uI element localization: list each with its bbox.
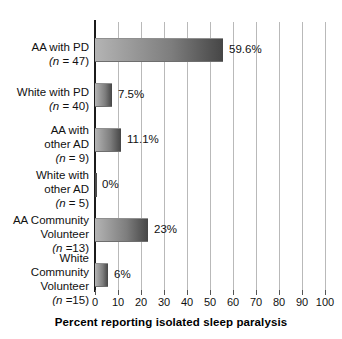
n-value: = 9) — [66, 152, 89, 164]
category-n: (n = 5) — [36, 196, 89, 210]
gridline — [325, 22, 326, 290]
x-axis-tick — [279, 290, 280, 295]
category-name: AA with PD — [31, 40, 89, 54]
bar-white-community-volunteer[interactable] — [95, 263, 108, 287]
category-n: (n = 40) — [17, 99, 89, 113]
n-italic: (n — [55, 152, 65, 164]
category-name: AA with — [44, 123, 89, 137]
category-name: Volunteer — [31, 279, 89, 293]
bar-value-label: 7.5% — [118, 87, 144, 101]
gridline — [187, 22, 188, 290]
bar-value-label: 0% — [102, 177, 119, 191]
category-name: White with PD — [17, 85, 89, 99]
category-n: (n = 9) — [44, 151, 89, 165]
n-value: = 5) — [66, 197, 89, 209]
n-italic: (n — [55, 197, 65, 209]
category-name: other AD — [44, 137, 89, 151]
bar-chart: 0102030405060708090100 59.6% 7.5% 11.1% … — [0, 0, 342, 339]
category-name: other AD — [36, 182, 89, 196]
x-axis-tick — [210, 290, 211, 295]
gridline — [279, 22, 280, 290]
gridline — [233, 22, 234, 290]
category-name: Community — [31, 265, 89, 279]
gridline — [256, 22, 257, 290]
n-italic: (n — [49, 100, 59, 112]
n-value: = 47) — [59, 55, 89, 67]
bar-white-with-pd[interactable] — [95, 83, 112, 107]
gridline — [302, 22, 303, 290]
x-axis-tick — [95, 290, 96, 295]
category-label-white-with-pd: White with PD (n = 40) — [17, 85, 89, 113]
x-axis-tick — [256, 290, 257, 295]
x-axis-title: Percent reporting isolated sleep paralys… — [0, 316, 342, 328]
x-axis-tick — [164, 290, 165, 295]
category-label-aa-community-volunteer: AA Community Volunteer (n =13) — [13, 213, 89, 255]
category-label-white-community-volunteer: White Community Volunteer (n =15) — [31, 251, 89, 307]
category-n: (n = 47) — [31, 54, 89, 68]
x-axis-tick — [233, 290, 234, 295]
x-axis-tick — [302, 290, 303, 295]
bar-value-label: 59.6% — [229, 42, 262, 56]
plot-area: 0102030405060708090100 59.6% 7.5% 11.1% … — [95, 22, 325, 290]
category-label-white-with-other-ad: White with other AD (n = 5) — [36, 168, 89, 210]
n-italic: (n — [49, 55, 59, 67]
gridline — [118, 22, 119, 290]
x-axis-tick — [325, 290, 326, 295]
x-axis-tick — [141, 290, 142, 295]
gridline — [141, 22, 142, 290]
bar-value-label: 23% — [154, 222, 177, 236]
x-axis-tick — [187, 290, 188, 295]
category-name: White with — [36, 168, 89, 182]
category-name: Volunteer — [13, 227, 89, 241]
category-n: (n =15) — [31, 293, 89, 307]
n-value: =15) — [62, 294, 89, 306]
category-label-aa-with-pd: AA with PD (n = 47) — [31, 40, 89, 68]
category-name: White — [31, 251, 89, 265]
bar-white-with-other-ad[interactable] — [95, 173, 97, 197]
bar-value-label: 11.1% — [127, 132, 159, 146]
bar-aa-community-volunteer[interactable] — [95, 218, 148, 242]
gridline — [210, 22, 211, 290]
bar-aa-with-other-ad[interactable] — [95, 128, 121, 152]
gridline — [164, 22, 165, 290]
bar-aa-with-pd[interactable] — [95, 38, 223, 62]
x-axis-tick — [118, 290, 119, 295]
category-name: AA Community — [13, 213, 89, 227]
bar-value-label: 6% — [114, 267, 131, 281]
category-label-aa-with-other-ad: AA with other AD (n = 9) — [44, 123, 89, 165]
x-axis-tick-label: 100 — [310, 296, 340, 309]
n-italic: (n — [52, 294, 62, 306]
n-value: = 40) — [59, 100, 89, 112]
